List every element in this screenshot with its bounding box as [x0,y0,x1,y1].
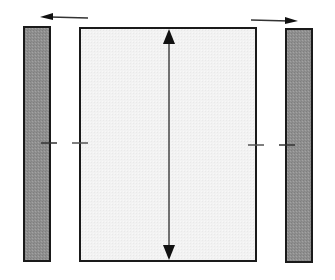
left-arrow-icon [40,13,88,20]
right-arrow-icon [251,17,298,24]
left-bar [24,27,50,261]
center-panel [80,28,256,261]
diagram-canvas [0,0,335,280]
